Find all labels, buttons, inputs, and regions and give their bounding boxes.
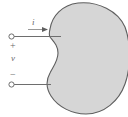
- circuit-figure: i v + −: [0, 0, 128, 117]
- positive-polarity-sign: +: [10, 41, 16, 51]
- circuit-diagram-svg: [0, 0, 128, 117]
- negative-polarity-sign: −: [10, 70, 16, 80]
- terminal-node-negative-icon: [9, 82, 14, 87]
- current-label: i: [32, 18, 35, 27]
- black-box-blob-icon: [47, 3, 128, 114]
- voltage-label: v: [11, 54, 15, 63]
- terminal-node-positive-icon: [9, 34, 14, 39]
- arrow-right-icon: [28, 27, 48, 32]
